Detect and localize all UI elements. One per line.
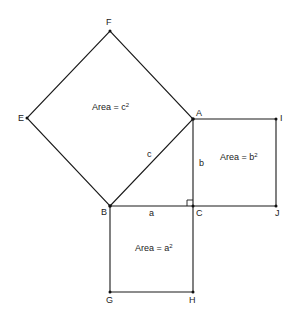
point-B [108,204,112,208]
side-label-c: c [147,149,152,159]
point-F [109,30,112,33]
point-G [109,291,112,294]
point-H [192,291,195,294]
label-A: A [196,108,202,118]
point-A [191,117,195,121]
point-I [275,118,278,121]
label-J: J [275,208,280,218]
area-a-label: Area = a2 [135,243,173,253]
area-c-label: Area = c2 [92,102,130,112]
square-b [193,119,276,206]
point-C [192,205,195,208]
label-C: C [196,208,203,218]
label-H: H [189,295,196,305]
side-label-a: a [149,208,154,218]
label-G: G [106,295,113,305]
label-E: E [18,113,24,123]
side-label-b: b [199,158,204,168]
label-F: F [106,17,112,27]
square-c [27,31,193,206]
area-b-label: Area = b2 [220,152,258,162]
point-E [26,117,29,120]
pythagoras-diagram: F E A I B C J G H c b a Area = c2 Area =… [0,0,297,322]
label-I: I [280,113,283,123]
label-B: B [101,207,107,217]
